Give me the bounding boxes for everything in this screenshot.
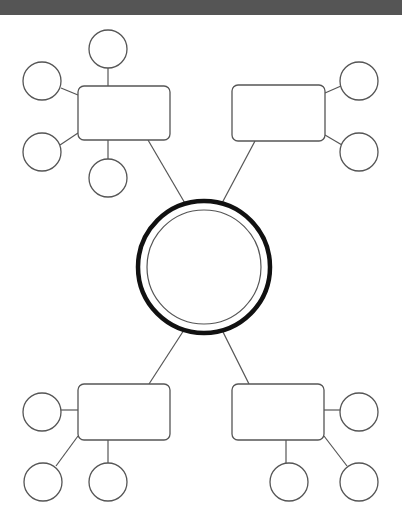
branch-box-bottom-right — [232, 384, 324, 440]
detail-circle — [340, 62, 378, 100]
node-link — [324, 436, 347, 466]
mind-map-diagram — [0, 0, 402, 531]
branch-link-top-left — [148, 140, 186, 205]
branch-link-bottom-left — [149, 330, 184, 384]
detail-circle — [23, 393, 61, 431]
node-link — [60, 133, 78, 145]
branch-link-top-right — [221, 141, 255, 205]
diagram-shapes — [23, 30, 378, 501]
node-link — [325, 86, 341, 93]
detail-circle — [340, 133, 378, 171]
detail-circle — [89, 30, 127, 68]
node-link — [56, 436, 78, 466]
detail-circle — [23, 133, 61, 171]
branch-box-top-right — [232, 85, 325, 141]
detail-circle — [24, 463, 62, 501]
detail-circle — [23, 62, 61, 100]
detail-circle — [270, 463, 308, 501]
branch-box-top-left — [78, 86, 170, 140]
branch-link-bottom-right — [222, 330, 249, 384]
center-circle-inner — [147, 210, 261, 324]
detail-circle — [340, 463, 378, 501]
node-link — [325, 135, 342, 145]
node-link — [61, 88, 78, 95]
detail-circle — [89, 159, 127, 197]
branch-box-bottom-left — [78, 384, 170, 440]
detail-circle — [89, 463, 127, 501]
detail-circle — [340, 393, 378, 431]
